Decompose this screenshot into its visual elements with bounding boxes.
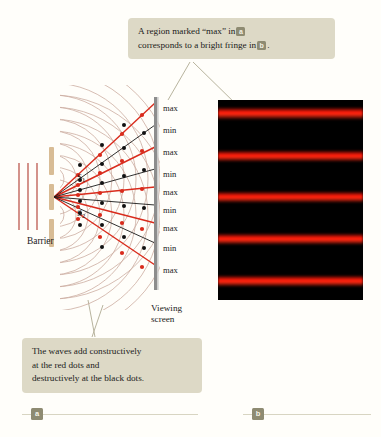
- antinodal-lines: [54, 103, 155, 265]
- callout-bottom-line3: destructively at the black dots.: [32, 372, 193, 386]
- panel-label-a: a: [31, 408, 43, 420]
- barrier: [49, 147, 54, 247]
- incoming-wavefronts: [19, 163, 37, 230]
- callout-top-line2: corresponds to a bright fringe inb.: [138, 39, 326, 53]
- inline-chip-b: b: [257, 41, 266, 50]
- screen-label-max-1: max: [163, 103, 178, 113]
- slit-label-s1-subscript: 1: [82, 176, 85, 183]
- screen-label-min-4: min: [163, 243, 176, 253]
- double-slit-diagram: [0, 85, 215, 310]
- screen-label-max-4: max: [163, 223, 178, 233]
- slit-label-s2-subscript: 2: [82, 212, 85, 219]
- slit-label-s1: S1: [77, 172, 85, 183]
- screen-label-max-2: max: [163, 147, 178, 157]
- callout-top-text-2a: corresponds to a bright fringe in: [138, 40, 256, 50]
- callout-top: A region marked “max” ina corresponds to…: [128, 18, 335, 59]
- circular-wavefronts: [0, 85, 172, 310]
- callout-bottom-line2: at the red dots and: [32, 359, 193, 373]
- bright-fringe: [218, 233, 363, 245]
- viewing-screen-label-line2: screen: [151, 314, 182, 325]
- callout-top-line1: A region marked “max” ina: [138, 25, 326, 39]
- callout-bottom: The waves add constructively at the red …: [22, 338, 202, 393]
- inline-chip-a: a: [236, 27, 245, 36]
- screen-label-min-3: min: [163, 205, 176, 215]
- callout-bottom-line1: The waves add constructively: [32, 345, 193, 359]
- bright-fringe: [218, 191, 363, 203]
- slit-label-s2: S2: [77, 208, 85, 219]
- callout-top-text-2b: .: [267, 40, 269, 50]
- screen-label-min-1: min: [163, 125, 176, 135]
- screen-label-min-2: min: [163, 169, 176, 179]
- panel-label-b: b: [252, 408, 264, 420]
- fringe-pattern-panel: [218, 100, 363, 300]
- nodal-lines: [54, 125, 155, 243]
- viewing-screen-label: Viewing screen: [151, 303, 182, 325]
- screen-label-max-5: max: [163, 265, 178, 275]
- screen-label-max-3: max: [163, 187, 178, 197]
- callout-top-text-1a: A region marked “max” in: [138, 26, 235, 36]
- viewing-screen-label-line1: Viewing: [151, 303, 182, 314]
- diagram-svg: [0, 85, 215, 310]
- viewing-screen: [154, 97, 159, 290]
- barrier-label: Barrier: [27, 236, 54, 246]
- bright-fringe: [218, 150, 363, 162]
- bright-fringe: [218, 107, 363, 120]
- bright-fringe: [218, 275, 363, 287]
- panel-a-rule: [22, 414, 198, 415]
- figure-root: A region marked “max” ina corresponds to…: [0, 0, 381, 437]
